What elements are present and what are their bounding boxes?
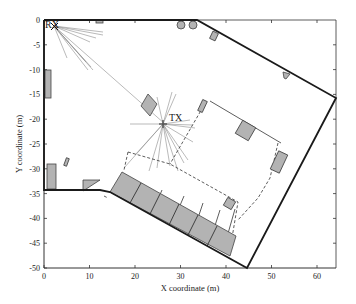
y-tick-label: -35 xyxy=(29,190,40,199)
x-tick-label: 0 xyxy=(42,272,46,281)
tx-label: TX xyxy=(169,112,183,123)
y-tick-label: -20 xyxy=(29,115,40,124)
tx-marker: TX xyxy=(159,112,183,128)
x-axis-title: X coordinate (m) xyxy=(161,283,220,293)
x-tick-label: 60 xyxy=(313,272,321,281)
obstacle-circle-1 xyxy=(177,21,185,29)
obstacle-left-tall xyxy=(45,70,51,98)
obstacle-left-lower xyxy=(47,164,56,189)
y-tick-label: -15 xyxy=(29,90,40,99)
y-axis-title: Y coordinate (m) xyxy=(14,115,24,173)
y-tick-label: -45 xyxy=(29,239,40,248)
rx-marker: RX xyxy=(45,19,60,30)
x-tick-label: 40 xyxy=(222,272,230,281)
x-tick-labels: 0 10 20 30 40 50 60 xyxy=(42,272,321,281)
x-tick-label: 30 xyxy=(177,272,185,281)
obstacle-room-corner xyxy=(198,100,208,113)
obstacle-circle-2 xyxy=(189,21,197,29)
y-tick-label: -10 xyxy=(29,66,40,75)
x-tick-label: 10 xyxy=(86,272,94,281)
obstacle-room-square xyxy=(235,120,255,140)
x-tick-label: 20 xyxy=(131,272,139,281)
y-tick-label: 0 xyxy=(36,16,40,25)
axes: 0 10 20 30 40 50 60 X coordinate (m) 0 -… xyxy=(14,16,336,293)
y-tick-labels: 0 -5 -10 -15 -20 -25 -30 -35 -40 -45 -50 xyxy=(29,16,40,273)
y-tick-label: -5 xyxy=(33,41,40,50)
obstacle-top-right xyxy=(210,31,219,41)
x-tick-label: 50 xyxy=(268,272,276,281)
y-tick-label: -30 xyxy=(29,165,40,174)
obstacle-room-right xyxy=(270,151,288,173)
y-tick-label: -50 xyxy=(29,264,40,273)
parking-bays xyxy=(110,172,236,256)
floor-plan-figure: 0 10 20 30 40 50 60 X coordinate (m) 0 -… xyxy=(0,0,356,304)
obstacle-wall-notch xyxy=(283,72,290,79)
tx-rays xyxy=(124,92,195,171)
rx-label: RX xyxy=(45,19,60,30)
obstacle-small-slanted xyxy=(64,158,70,167)
y-tick-label: -25 xyxy=(29,140,40,149)
obstacle-diamond xyxy=(141,94,157,116)
y-tick-label: -40 xyxy=(29,214,40,223)
